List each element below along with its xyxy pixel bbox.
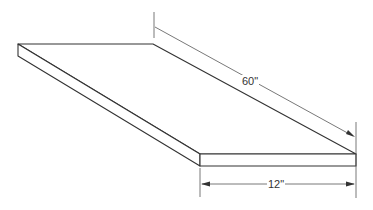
arrowhead-length-end [346, 130, 355, 137]
dimension-label-width: 12" [267, 178, 285, 190]
arrowhead-width-end [346, 182, 355, 187]
board-front-face [200, 154, 356, 166]
board-drawing [0, 0, 373, 210]
dimension-label-length: 60" [241, 75, 259, 87]
arrowhead-width-start [201, 182, 210, 187]
board-top-face [18, 44, 356, 154]
diagram-canvas: 60" 12" [0, 0, 373, 210]
